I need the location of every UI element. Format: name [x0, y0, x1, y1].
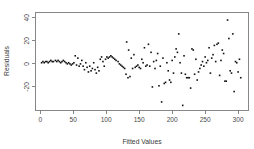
- data-point: [229, 70, 231, 72]
- data-point: [97, 67, 99, 69]
- data-point: [161, 101, 163, 103]
- data-point: [166, 62, 168, 64]
- data-point: [128, 49, 130, 51]
- data-point: [74, 55, 76, 57]
- data-point: [237, 71, 239, 73]
- x-tick-label: 100: [101, 116, 112, 123]
- data-point: [82, 65, 84, 67]
- data-point: [93, 62, 95, 64]
- data-point: [202, 61, 204, 63]
- data-point: [240, 77, 242, 79]
- data-point: [221, 49, 223, 51]
- data-point: [195, 58, 197, 60]
- data-point: [165, 82, 167, 84]
- y-tick-label: 0: [23, 62, 30, 66]
- data-point: [73, 62, 75, 64]
- data-point: [223, 53, 225, 55]
- data-point: [173, 72, 175, 74]
- x-tick-label: 300: [233, 116, 244, 123]
- x-tick-label: 0: [38, 116, 42, 123]
- data-point: [200, 64, 202, 66]
- data-point: [84, 69, 86, 71]
- data-point: [231, 72, 233, 74]
- residual-plot: -2002040 050100150200250300 Fitted Value…: [0, 0, 254, 149]
- data-point: [90, 70, 92, 72]
- data-point: [233, 91, 235, 93]
- data-point: [137, 64, 139, 66]
- data-point: [144, 47, 146, 49]
- plot-canvas: -2002040 050100150200250300 Fitted Value…: [0, 0, 254, 149]
- data-point: [115, 60, 117, 62]
- data-point: [211, 57, 213, 59]
- data-point: [169, 79, 171, 81]
- y-axis: -2002040: [23, 14, 35, 92]
- data-point: [219, 75, 221, 77]
- data-point: [171, 60, 173, 62]
- data-point: [157, 53, 159, 55]
- y-tick-label: 40: [23, 14, 30, 22]
- data-point: [214, 45, 216, 47]
- data-point: [194, 73, 196, 75]
- data-point: [210, 72, 212, 74]
- data-point: [239, 58, 241, 60]
- data-point: [146, 64, 148, 66]
- data-point: [178, 33, 180, 35]
- data-point: [177, 52, 179, 54]
- data-point: [203, 65, 205, 67]
- data-point: [99, 58, 101, 60]
- x-tick-label: 250: [200, 116, 211, 123]
- data-point: [207, 60, 209, 62]
- data-point: [196, 79, 198, 81]
- scatter-points: [41, 19, 242, 106]
- y-axis-title: Residuals: [3, 45, 10, 75]
- data-point: [175, 48, 177, 50]
- data-point: [86, 67, 88, 69]
- data-point: [94, 69, 96, 71]
- data-point: [126, 41, 128, 43]
- data-point: [102, 61, 104, 63]
- data-point: [208, 47, 210, 49]
- data-point: [127, 77, 129, 79]
- data-point: [227, 19, 229, 21]
- data-point: [78, 65, 80, 67]
- data-point: [80, 63, 82, 65]
- data-point: [212, 54, 214, 56]
- data-point: [124, 68, 126, 70]
- data-point: [148, 43, 150, 45]
- data-point: [89, 65, 91, 67]
- data-point: [92, 68, 94, 70]
- data-point: [81, 60, 83, 62]
- data-point: [189, 77, 191, 79]
- data-point: [162, 57, 164, 59]
- data-point: [53, 61, 55, 63]
- data-point: [156, 60, 158, 62]
- data-point: [141, 58, 143, 60]
- x-axis: 050100150200250300: [38, 110, 243, 123]
- data-point: [182, 105, 184, 107]
- data-point: [228, 38, 230, 40]
- data-point: [154, 68, 156, 70]
- data-point: [129, 76, 131, 78]
- data-point: [105, 58, 107, 60]
- data-point: [220, 60, 222, 62]
- x-tick-label: 200: [167, 116, 178, 123]
- data-point: [76, 64, 78, 66]
- data-point: [140, 68, 142, 70]
- data-point: [206, 62, 208, 64]
- data-point: [179, 62, 181, 64]
- data-point: [77, 57, 79, 59]
- data-point: [150, 52, 152, 54]
- data-point: [174, 56, 176, 58]
- data-point: [181, 72, 183, 74]
- data-point: [130, 57, 132, 59]
- data-point: [192, 49, 194, 51]
- data-point: [125, 73, 127, 75]
- data-point: [103, 65, 105, 67]
- data-point: [225, 80, 227, 82]
- y-tick-label: 20: [23, 37, 30, 45]
- data-point: [204, 56, 206, 58]
- data-point: [98, 70, 100, 72]
- data-point: [215, 61, 217, 63]
- data-point: [153, 61, 155, 63]
- data-point: [232, 33, 234, 35]
